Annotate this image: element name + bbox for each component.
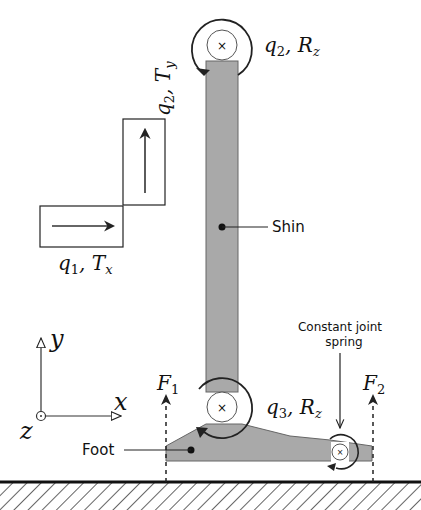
force-f1: F1 [156,371,179,482]
label-q2-rz: q2, Rz [264,33,320,59]
label-q3-rz: q3, Rz [266,395,322,421]
f1-arrow-icon [161,394,171,405]
label-f2: F2 [362,371,385,397]
label-shin: Shin [272,218,305,236]
label-q1-tx: q1, Tx [58,251,113,277]
force-f2: F2 [362,371,385,482]
label-foot: Foot [82,441,114,459]
slider-y-box [123,119,165,205]
label-axis-x: x [114,388,128,416]
label-spring-line2: spring [325,335,362,349]
ground [0,482,421,510]
hip-joint-x-icon: × [217,39,227,53]
label-axis-z: z [19,417,33,445]
coordinate-frame: y x z [19,325,128,445]
toe-rotation-arrow-icon [327,463,336,471]
label-q2-ty: q2, Ty [151,61,177,116]
leg-model-diagram: q1, Tx q2, Ty Shin × q2, Rz Foot × q3, R… [0,0,421,510]
ankle-joint-x-icon: × [217,401,227,415]
label-f1: F1 [156,371,179,397]
prismatic-joints [40,119,165,247]
ground-hatch [0,482,421,510]
label-axis-y: y [49,325,64,353]
label-spring-line1: Constant joint [298,320,382,334]
toe-joint-x-icon: × [337,448,344,457]
axis-z-dot [40,415,42,417]
